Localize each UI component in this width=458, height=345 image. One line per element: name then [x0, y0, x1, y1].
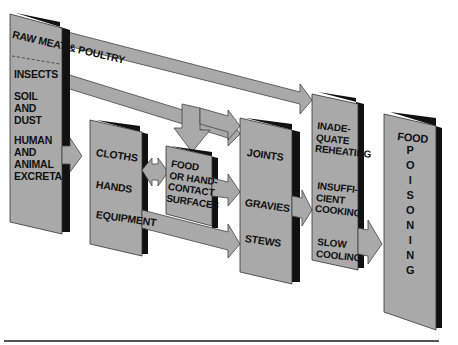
label-poisoning-vertical: P O I S O N I N G: [406, 143, 414, 278]
label-human-animal-excreta: HUMAN AND ANIMAL EXCRETA: [14, 134, 62, 182]
label-insufficient-cooking: INSUFFI- CIENT COOKING: [314, 180, 364, 219]
bottom-rule: [4, 340, 439, 342]
label-soil-and-dust: SOIL AND DUST: [14, 90, 42, 126]
food-poisoning-diagram: .bx { fill: #a9a9a9; stroke: #333; strok…: [0, 0, 458, 345]
label-food-or-hand-contact-surfaces: FOOD OR HAND- CONTACT SURFACES: [166, 158, 225, 211]
label-inadequate-reheating: INADE- QUATE REHEATING: [314, 120, 374, 160]
label-slow-cooling: SLOW COOLING: [316, 236, 363, 264]
label-insects: INSECTS: [14, 68, 58, 80]
arrow-insects-to-joints: [60, 72, 240, 146]
arrow-rawmeat-to-reheating: [60, 30, 312, 114]
